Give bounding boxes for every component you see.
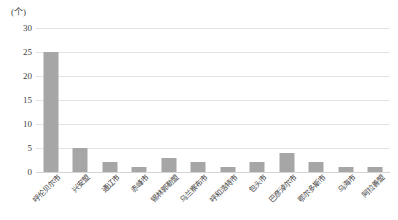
bar[interactable] [161, 158, 176, 172]
bar-slot [302, 28, 332, 172]
bar-slot [361, 28, 391, 172]
bar[interactable] [279, 153, 294, 172]
bar-slot [154, 28, 184, 172]
bar-slot [36, 28, 66, 172]
bar[interactable] [43, 52, 58, 172]
bar[interactable] [338, 167, 353, 172]
y-tick-label-15: 15 [0, 96, 32, 105]
bar[interactable] [368, 167, 383, 172]
bar-slot [125, 28, 155, 172]
bar-slot [272, 28, 302, 172]
bar[interactable] [250, 162, 265, 172]
y-tick-label-25: 25 [0, 48, 32, 57]
bar-slot [184, 28, 214, 172]
bar-slot [331, 28, 361, 172]
bar-chart: (个) 051015202530 呼伦贝尔市兴安盟通辽市赤峰市锡林郭勒盟乌兰察布… [0, 0, 398, 220]
bar-slot [213, 28, 243, 172]
bar[interactable] [191, 162, 206, 172]
bar[interactable] [102, 162, 117, 172]
y-axis-unit-label: (个) [11, 7, 26, 18]
y-tick-label-5: 5 [0, 144, 32, 153]
bar-slot [95, 28, 125, 172]
x-axis-labels: 呼伦贝尔市兴安盟通辽市赤峰市锡林郭勒盟乌兰察布市呼和浩特市包头市巴彦淖尔市鄂尔多… [36, 174, 390, 220]
bars-layer [36, 28, 390, 172]
y-tick-label-30: 30 [0, 24, 32, 33]
bar[interactable] [73, 148, 88, 172]
bar-slot [66, 28, 96, 172]
bar[interactable] [309, 162, 324, 172]
bar[interactable] [220, 167, 235, 172]
y-tick-label-0: 0 [0, 168, 32, 177]
bar[interactable] [132, 167, 147, 172]
gridline-0 [36, 172, 390, 173]
bar-slot [243, 28, 273, 172]
y-tick-label-10: 10 [0, 120, 32, 129]
y-tick-label-20: 20 [0, 72, 32, 81]
